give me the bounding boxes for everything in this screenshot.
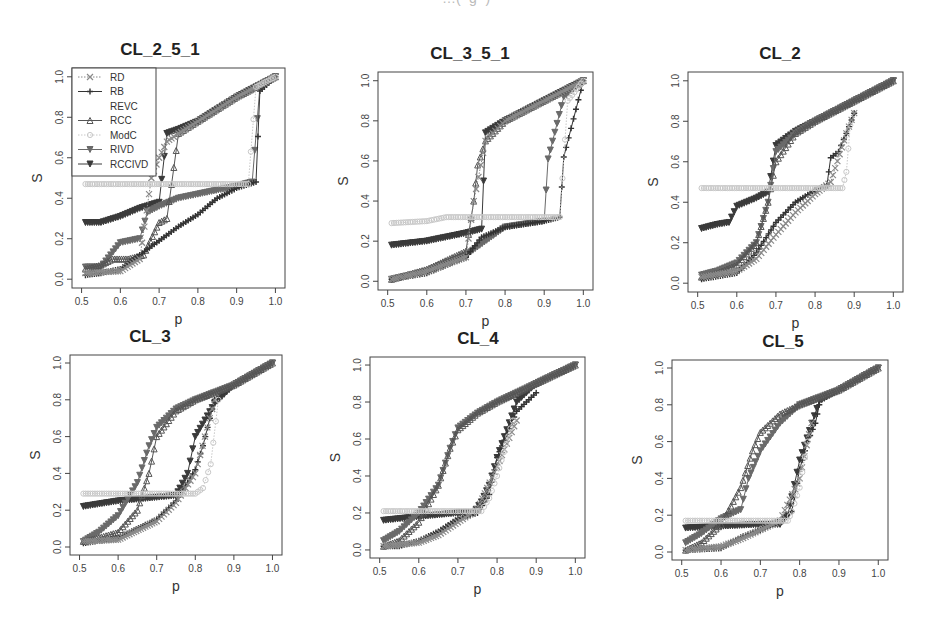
series-rivd xyxy=(381,362,579,544)
svg-text:p: p xyxy=(172,578,180,594)
svg-text:0.8: 0.8 xyxy=(360,113,371,127)
svg-text:1.0: 1.0 xyxy=(654,361,665,375)
svg-text:ModC: ModC xyxy=(110,130,137,141)
svg-text:0.6: 0.6 xyxy=(714,568,728,579)
svg-text:0.0: 0.0 xyxy=(54,272,65,286)
series-rcc xyxy=(389,78,587,283)
svg-text:0.4: 0.4 xyxy=(52,466,63,480)
svg-text:0.8: 0.8 xyxy=(670,114,681,128)
plot-area: 0.50.60.70.80.91.00.00.20.40.60.81.0pS xyxy=(629,360,888,599)
plots-canvas: 0.50.60.70.80.91.00.00.20.40.60.81.0pSRD… xyxy=(0,0,932,631)
plot-area: 0.50.60.70.80.91.00.00.20.40.60.81.0pS xyxy=(335,72,593,329)
svg-text:0.6: 0.6 xyxy=(54,150,65,164)
series-modc xyxy=(389,78,586,226)
svg-text:S: S xyxy=(335,176,351,185)
svg-text:0.9: 0.9 xyxy=(227,563,241,574)
svg-text:1.0: 1.0 xyxy=(576,298,590,309)
svg-text:0.4: 0.4 xyxy=(360,194,371,208)
svg-text:0.0: 0.0 xyxy=(352,543,363,557)
svg-text:S: S xyxy=(645,177,661,186)
svg-text:0.0: 0.0 xyxy=(360,274,371,288)
svg-text:1.0: 1.0 xyxy=(871,568,885,579)
svg-text:0.2: 0.2 xyxy=(360,234,371,248)
legend: RDRBREVCRCCModCRIVDRCCIVD xyxy=(72,68,156,176)
svg-text:RCCIVD: RCCIVD xyxy=(110,159,148,170)
svg-text:0.5: 0.5 xyxy=(75,296,89,307)
svg-text:0.6: 0.6 xyxy=(670,154,681,168)
svg-text:0.8: 0.8 xyxy=(352,395,363,409)
svg-text:0.8: 0.8 xyxy=(188,563,202,574)
svg-text:1.0: 1.0 xyxy=(670,73,681,87)
svg-text:0.8: 0.8 xyxy=(793,568,807,579)
svg-text:0.0: 0.0 xyxy=(670,276,681,290)
svg-text:1.0: 1.0 xyxy=(352,358,363,372)
legend-entry-revc: REVC xyxy=(110,101,138,112)
svg-text:1.0: 1.0 xyxy=(266,563,280,574)
svg-text:S: S xyxy=(629,455,645,464)
series-rcc xyxy=(699,78,897,280)
svg-text:1.0: 1.0 xyxy=(886,300,900,311)
svg-text:p: p xyxy=(175,311,183,327)
svg-text:0.5: 0.5 xyxy=(675,568,689,579)
svg-text:S: S xyxy=(27,450,43,459)
series-rivd xyxy=(389,78,587,283)
svg-text:0.7: 0.7 xyxy=(769,300,783,311)
svg-text:REVC: REVC xyxy=(110,101,138,112)
svg-text:0.8: 0.8 xyxy=(808,300,822,311)
svg-text:0.8: 0.8 xyxy=(54,110,65,124)
svg-text:0.6: 0.6 xyxy=(352,432,363,446)
svg-text:0.6: 0.6 xyxy=(52,429,63,443)
plot-area: 0.50.60.70.80.91.00.00.20.40.60.81.0pS xyxy=(27,355,282,594)
series-rb xyxy=(389,78,587,283)
svg-text:S: S xyxy=(29,173,45,182)
svg-text:p: p xyxy=(474,581,482,597)
svg-text:0.9: 0.9 xyxy=(847,300,861,311)
svg-text:RB: RB xyxy=(110,86,124,97)
svg-text:0.5: 0.5 xyxy=(73,563,87,574)
svg-text:0.6: 0.6 xyxy=(360,154,371,168)
svg-text:0.6: 0.6 xyxy=(111,563,125,574)
svg-text:0.4: 0.4 xyxy=(54,191,65,205)
svg-text:0.5: 0.5 xyxy=(691,300,705,311)
svg-text:0.4: 0.4 xyxy=(670,195,681,209)
svg-text:S: S xyxy=(327,453,343,462)
svg-text:0.4: 0.4 xyxy=(654,471,665,485)
svg-text:p: p xyxy=(776,583,784,599)
series-rd xyxy=(699,110,858,280)
svg-text:RD: RD xyxy=(110,72,124,83)
svg-text:p: p xyxy=(792,315,800,331)
series-rivd xyxy=(80,360,275,544)
series-rccivd xyxy=(389,78,587,248)
svg-text:0.7: 0.7 xyxy=(459,298,473,309)
svg-text:0.2: 0.2 xyxy=(654,508,665,522)
svg-text:0.8: 0.8 xyxy=(52,392,63,406)
svg-text:0.4: 0.4 xyxy=(352,469,363,483)
series-rcc xyxy=(80,360,275,544)
plot-area: 0.50.60.70.80.91.00.00.20.40.60.81.0pS xyxy=(29,68,285,327)
svg-text:0.2: 0.2 xyxy=(54,231,65,245)
svg-text:0.7: 0.7 xyxy=(152,296,166,307)
svg-text:0.7: 0.7 xyxy=(753,568,767,579)
plot-area: 0.50.60.70.80.91.00.00.20.40.60.81.0pS xyxy=(327,357,585,597)
series-rccivd xyxy=(381,362,579,523)
svg-text:0.9: 0.9 xyxy=(537,298,551,309)
svg-text:0.0: 0.0 xyxy=(654,545,665,559)
svg-text:0.8: 0.8 xyxy=(498,298,512,309)
svg-text:0.6: 0.6 xyxy=(654,434,665,448)
svg-text:0.5: 0.5 xyxy=(381,298,395,309)
series-rccivd xyxy=(699,78,897,232)
svg-text:0.9: 0.9 xyxy=(832,568,846,579)
svg-text:1.0: 1.0 xyxy=(54,69,65,83)
svg-text:RCC: RCC xyxy=(110,115,132,126)
plot-area: 0.50.60.70.80.91.00.00.20.40.60.81.0pS xyxy=(645,72,903,331)
svg-text:0.7: 0.7 xyxy=(451,566,465,577)
svg-text:0.2: 0.2 xyxy=(52,503,63,517)
series-modc xyxy=(81,397,221,496)
svg-text:0.7: 0.7 xyxy=(150,563,164,574)
svg-text:0.6: 0.6 xyxy=(420,298,434,309)
svg-text:0.8: 0.8 xyxy=(654,397,665,411)
series-rivd xyxy=(699,78,897,278)
series-rd xyxy=(389,78,587,283)
svg-text:0.9: 0.9 xyxy=(230,296,244,307)
series-rccivd xyxy=(683,365,882,531)
